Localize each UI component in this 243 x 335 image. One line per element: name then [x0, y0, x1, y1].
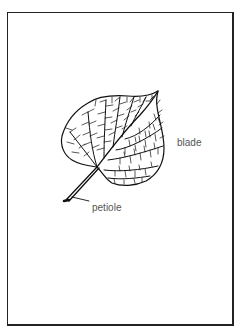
- leaf-illustration: [0, 0, 243, 335]
- petiole-label: petiole: [92, 203, 121, 213]
- petiole-tip: [64, 200, 69, 201]
- petiole-leader-line: [72, 197, 89, 201]
- petiole-stalk: [66, 167, 99, 201]
- blade-label: blade: [177, 138, 201, 148]
